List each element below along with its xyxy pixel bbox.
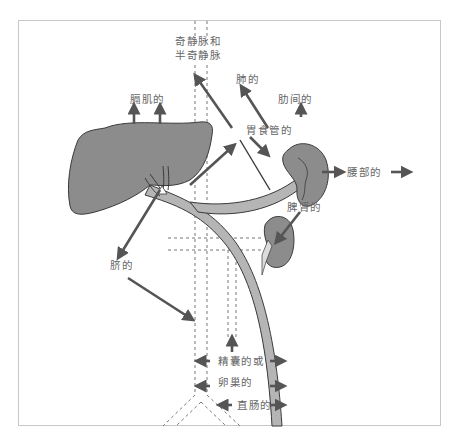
label-gonadal-line1: 精囊的或: [218, 354, 264, 368]
label-umbilical: 脐的: [110, 258, 133, 272]
label-intercostal: 肋间的: [278, 92, 313, 106]
label-phrenic: 膈肌的: [130, 92, 165, 106]
label-rectal: 直肠的: [237, 398, 272, 412]
label-pulmonary: 肺的: [236, 72, 259, 86]
label-splenorenal: 脾肾的: [287, 200, 322, 214]
label-gastroesophageal: 胃食管的: [246, 123, 292, 137]
liver: [68, 122, 212, 214]
label-azygos-line2: 半奇静脉: [175, 48, 221, 62]
label-azygos-line1: 奇静脉和: [175, 34, 221, 48]
spleen: [283, 144, 329, 207]
label-lumbar: 腰部的: [347, 165, 382, 179]
label-gonadal-line2: 卵巢的: [218, 375, 253, 389]
connector-lines: [240, 140, 270, 190]
